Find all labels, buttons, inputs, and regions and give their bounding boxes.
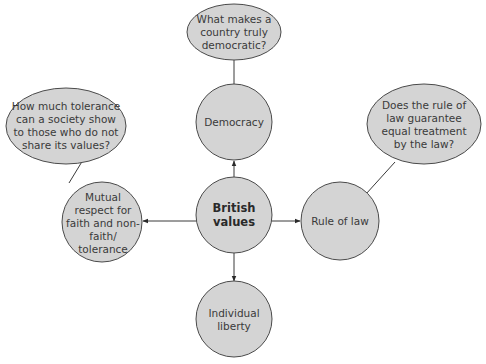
label-british-values: British values: [206, 195, 262, 235]
question-rule-of-law: Does the rule of law guarantee equal tre…: [377, 92, 471, 158]
question-democracy: What makes a country truly democratic?: [194, 10, 274, 54]
question-mutual-respect: How much tolerance can a society show to…: [10, 92, 122, 160]
label-democracy: Democracy: [198, 108, 270, 136]
label-rule-of-law: Rule of law: [302, 207, 378, 235]
connector-rule-of-law-question: [366, 162, 395, 194]
label-mutual-respect: Mutual respect for faith and non-faith/ …: [64, 196, 142, 250]
label-individual-liberty: Individual liberty: [200, 304, 268, 336]
